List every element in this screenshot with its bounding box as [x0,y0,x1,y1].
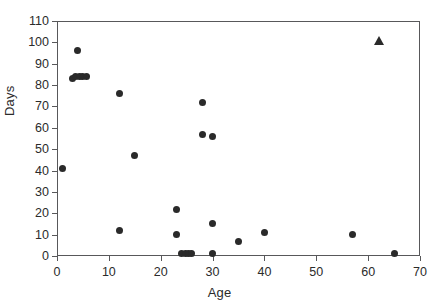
x-tick [316,256,317,261]
data-point [199,99,206,106]
x-tick-label: 40 [257,266,271,279]
scatter-plot-figure: 0102030405060708090100110 01020304050607… [0,0,439,307]
y-tick [52,85,57,86]
data-point [116,227,123,234]
data-point [261,229,268,236]
x-tick-label: 70 [413,266,427,279]
x-tick [420,256,421,261]
x-tick [161,256,162,261]
x-axis-title: Age [0,285,439,300]
y-axis-ticks: 0102030405060708090100110 [57,21,420,256]
data-point [391,250,398,257]
data-point [209,133,216,140]
data-point [188,250,195,257]
data-point [209,250,216,257]
y-tick-label: 70 [35,100,49,113]
x-tick-label: 30 [206,266,220,279]
y-tick [52,213,57,214]
y-tick [52,235,57,236]
x-tick-label: 0 [54,266,61,279]
y-tick-label: 100 [28,36,49,49]
data-point [83,73,90,80]
y-tick-label: 40 [35,164,49,177]
y-tick [52,106,57,107]
y-tick-label: 10 [35,228,49,241]
y-tick-label: 110 [29,15,49,28]
data-point [374,36,384,45]
y-tick-label: 80 [35,79,49,92]
x-tick [57,256,58,261]
y-tick [52,171,57,172]
x-tick [368,256,369,261]
data-point [173,206,180,213]
data-point [235,238,242,245]
y-tick-label: 90 [35,57,49,70]
x-tick-label: 50 [309,266,323,279]
x-tick-label: 60 [361,266,375,279]
y-axis-title: Days [2,86,17,116]
y-tick [52,42,57,43]
y-tick-label: 30 [35,186,49,199]
data-point [116,90,123,97]
y-tick-label: 0 [42,250,49,263]
y-tick [52,128,57,129]
y-tick [52,149,57,150]
y-tick-label: 50 [35,143,49,156]
x-tick [109,256,110,261]
data-point [59,165,66,172]
x-tick-label: 10 [102,266,116,279]
y-tick [52,64,57,65]
y-tick [52,21,57,22]
x-tick [264,256,265,261]
plot-area: 0102030405060708090100110 01020304050607… [57,21,420,256]
y-tick-label: 20 [35,207,49,220]
x-tick-label: 20 [154,266,168,279]
y-tick [52,192,57,193]
data-point [199,131,206,138]
data-point [173,231,180,238]
y-tick-label: 60 [35,122,49,135]
